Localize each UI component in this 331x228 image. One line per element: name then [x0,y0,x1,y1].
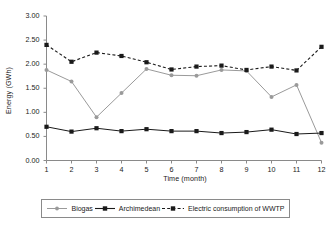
data-point-marker [69,60,73,64]
x-tick-label: 8 [214,165,230,174]
legend-swatch-biogas [46,204,68,213]
x-tick-label: 9 [239,165,255,174]
data-point-marker [194,129,198,133]
series-line [47,45,322,71]
data-point-marker [319,131,323,135]
data-point-marker [269,128,273,132]
y-axis-title: Energy (GWh) [4,56,13,126]
data-point-marker [319,45,323,49]
data-point-marker [119,129,123,133]
data-point-marker [219,131,223,135]
data-point-marker [169,129,173,133]
legend-label-biogas: Biogas [71,205,92,212]
y-tick-label: 3.00 [14,11,40,20]
x-tick-label: 10 [264,165,280,174]
legend-label-archimedean: Archimedean [119,205,160,212]
legend-swatch-electric-consumption [161,204,185,213]
data-point-marker [320,141,324,145]
data-point-marker [270,95,274,99]
x-tick-label: 12 [314,165,330,174]
series-archimedean [44,125,323,136]
legend-item-archimedean[interactable]: Archimedean [94,204,160,213]
data-point-marker [120,91,124,95]
data-point-marker [95,115,99,119]
x-tick-label: 5 [139,165,155,174]
data-point-marker [294,68,298,72]
y-tick-label: 1.50 [14,83,40,92]
y-tick-label: 2.50 [14,35,40,44]
data-point-marker [94,51,98,55]
data-point-marker [295,83,299,87]
y-tick-label: 2.00 [14,59,40,68]
data-point-marker [195,74,199,78]
data-point-marker [194,64,198,68]
data-point-marker [169,67,173,71]
y-tick-label: 0.00 [14,156,40,165]
data-point-marker [44,125,48,129]
data-point-marker [219,64,223,68]
data-point-marker [45,68,49,72]
chart-legend: Biogas Archimedean Electric consumption … [41,199,290,218]
legend-swatch-archimedean [94,204,116,213]
data-series-layer [44,43,323,145]
legend-item-electric-consumption[interactable]: Electric consumption of WWTP [161,204,284,213]
data-point-marker [244,68,248,72]
data-point-marker [70,80,74,84]
x-tick-label: 4 [114,165,130,174]
data-point-marker [144,127,148,131]
x-tick-label: 3 [89,165,105,174]
series-biogas [45,67,324,145]
data-point-marker [145,67,149,71]
data-point-marker [269,64,273,68]
data-point-marker [69,130,73,134]
y-tick-label: 0.50 [14,131,40,140]
data-point-marker [119,54,123,58]
legend-label-electric-consumption: Electric consumption of WWTP [188,205,284,212]
data-point-marker [220,68,224,72]
data-point-marker [94,126,98,130]
axis-lines [47,16,322,161]
x-tick-label: 2 [64,165,80,174]
data-point-marker [144,60,148,64]
legend-item-biogas[interactable]: Biogas [46,204,92,213]
series-electric-consumption-of-wwtp [44,43,323,73]
y-tick-label: 1.00 [14,107,40,116]
chart-figure: Energy (GWh) Time (month) 0.000.501.001.… [0,0,331,228]
x-tick-label: 6 [164,165,180,174]
series-line [47,127,322,134]
data-point-marker [44,43,48,47]
chart-plot-area [0,0,331,228]
x-tick-label: 1 [39,165,55,174]
data-point-marker [170,73,174,77]
x-tick-label: 7 [189,165,205,174]
x-axis-title: Time (month) [46,174,324,183]
data-point-marker [244,130,248,134]
x-tick-label: 11 [289,165,305,174]
data-point-marker [294,132,298,136]
